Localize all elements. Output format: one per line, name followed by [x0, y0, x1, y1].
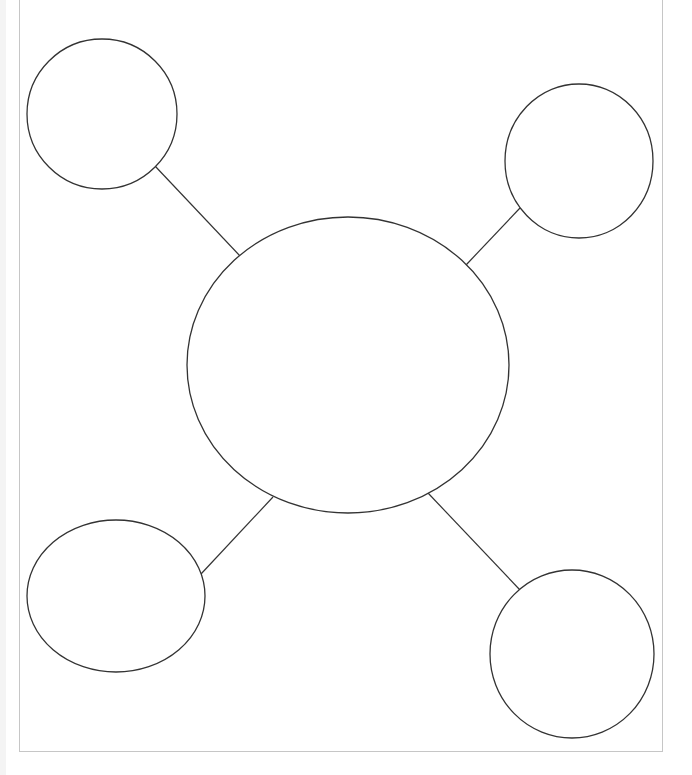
outer-bubble-bottom-right — [490, 570, 654, 738]
outer-bubble-top-right — [505, 84, 653, 238]
bubble-map — [0, 0, 692, 775]
worksheet-page — [0, 0, 692, 775]
connector-bottom-left — [201, 497, 273, 574]
nodes — [27, 39, 654, 738]
connector-bottom-right — [428, 493, 520, 590]
connector-top-right — [466, 208, 520, 265]
connector-top-left — [155, 166, 240, 256]
outer-bubble-top-left — [27, 39, 177, 189]
center-bubble — [187, 217, 509, 513]
outer-bubble-bottom-left — [27, 520, 205, 672]
